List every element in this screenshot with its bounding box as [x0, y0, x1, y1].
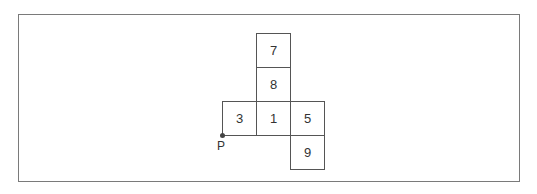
net-square-3: 3	[222, 101, 257, 136]
square-label: 3	[236, 111, 243, 126]
square-label: 1	[270, 111, 277, 126]
square-label: 5	[304, 111, 311, 126]
square-label: 8	[270, 77, 277, 92]
net-square-7: 7	[256, 33, 291, 68]
net-square-1: 1	[256, 101, 291, 136]
square-label: 7	[270, 43, 277, 58]
net-square-8: 8	[256, 67, 291, 102]
net-square-9: 9	[290, 135, 325, 170]
point-p-label: P	[217, 139, 225, 153]
point-p-marker	[220, 133, 225, 138]
square-label: 9	[304, 145, 311, 160]
net-square-5: 5	[290, 101, 325, 136]
